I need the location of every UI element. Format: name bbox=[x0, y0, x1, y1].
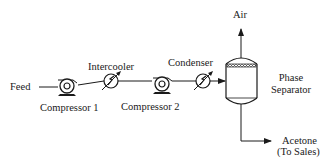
compressor-1-icon bbox=[58, 79, 77, 96]
phase-separator-label-line2: Separator bbox=[264, 84, 318, 96]
phase-separator-label-line1: Phase bbox=[266, 72, 316, 84]
to-sales-label: (To Sales) bbox=[277, 146, 320, 158]
condenser-icon bbox=[194, 71, 213, 90]
intercooler-icon bbox=[102, 71, 121, 90]
acetone-outlet-line bbox=[241, 104, 271, 141]
feed-label: Feed bbox=[10, 81, 30, 93]
phase-separator-icon bbox=[226, 58, 257, 104]
compressor-2-icon bbox=[153, 77, 172, 94]
compressor-2-label: Compressor 2 bbox=[121, 101, 180, 113]
compressor-1-label: Compressor 1 bbox=[40, 102, 99, 114]
intercooler-label: Intercooler bbox=[88, 61, 134, 73]
air-label: Air bbox=[233, 9, 247, 21]
condenser-label: Condenser bbox=[168, 57, 213, 69]
